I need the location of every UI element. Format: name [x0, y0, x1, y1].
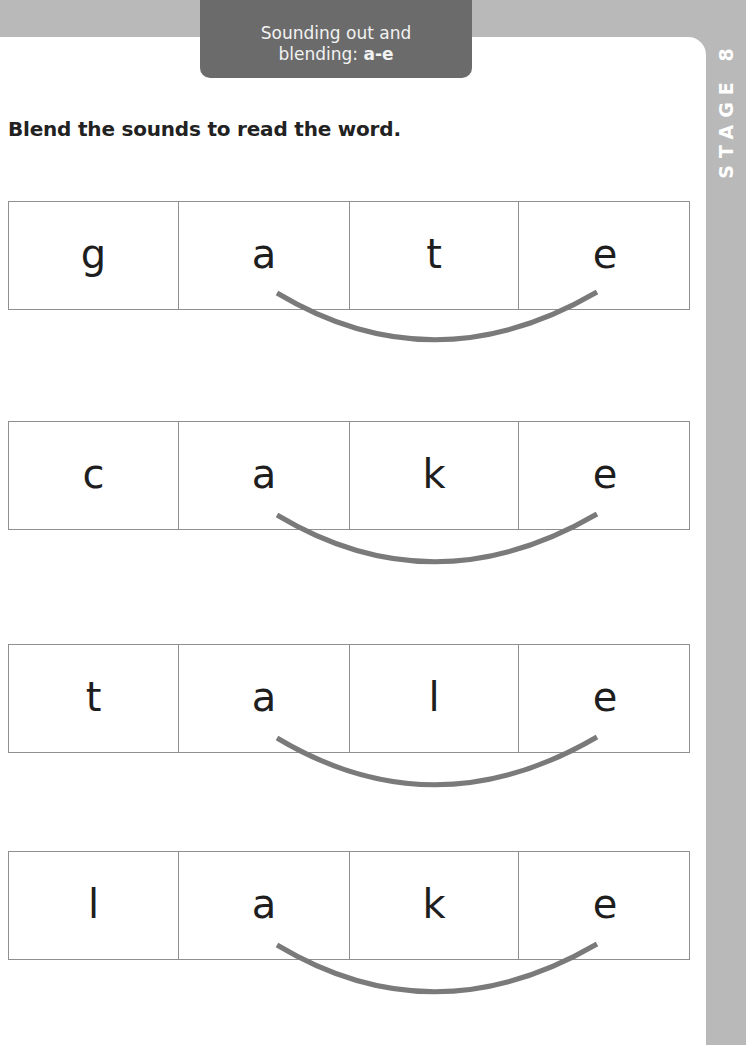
sound-buttons-grid: l a k e [8, 851, 690, 960]
letter-cell: e [519, 202, 691, 309]
sound-buttons-grid: t a l e [8, 644, 690, 753]
letter-cell: e [519, 852, 691, 959]
instruction-heading: Blend the sounds to read the word. [8, 117, 401, 141]
letter-cell: k [350, 852, 519, 959]
word-row-2: c a k e [8, 421, 690, 530]
letter-cell: g [9, 202, 179, 309]
topic-title-line1: Sounding out and [200, 23, 472, 44]
letter-cell: l [9, 852, 179, 959]
topic-digraph: a-e [363, 44, 393, 64]
letter-cell: l [350, 645, 519, 752]
topic-title-line2: blending: a-e [200, 44, 472, 65]
letter-cell: a [179, 645, 350, 752]
letter-cell: e [519, 422, 691, 529]
letter-cell: c [9, 422, 179, 529]
topic-title-prefix: blending: [278, 44, 363, 64]
letter-cell: a [179, 202, 350, 309]
sound-buttons-grid: g a t e [8, 201, 690, 310]
letter-cell: a [179, 422, 350, 529]
word-row-1: g a t e [8, 201, 690, 310]
letter-cell: a [179, 852, 350, 959]
sound-buttons-grid: c a k e [8, 421, 690, 530]
word-row-4: l a k e [8, 851, 690, 960]
letter-cell: t [9, 645, 179, 752]
stage-text: STAGE 8 [715, 41, 737, 178]
topic-tab: Sounding out and blending: a-e [200, 0, 472, 78]
stage-side-label: STAGE 8 [706, 30, 746, 190]
letter-cell: t [350, 202, 519, 309]
letter-cell: k [350, 422, 519, 529]
letter-cell: e [519, 645, 691, 752]
word-row-3: t a l e [8, 644, 690, 753]
